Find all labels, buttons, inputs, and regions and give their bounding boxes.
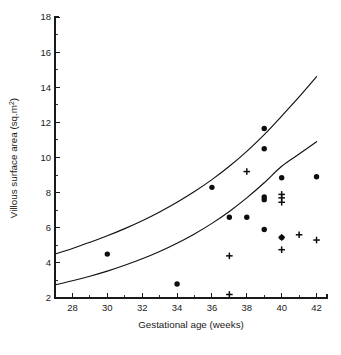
lower-reference-curve: [55, 142, 317, 285]
y-tick-label: 16: [40, 47, 51, 58]
y-tick-label: 2: [46, 292, 51, 303]
y-tick-label: 14: [40, 82, 51, 93]
x-axis-tick-labels: 2830323436384042: [67, 302, 322, 313]
data-point-circle: [314, 174, 319, 179]
chart-axes: [55, 17, 327, 298]
y-tick-label: 4: [46, 257, 51, 268]
data-point-circle: [262, 126, 267, 131]
data-point-circle: [262, 197, 267, 202]
y-tick-label: 10: [40, 152, 51, 163]
data-point-markers: [105, 126, 320, 298]
x-tick-label: 38: [242, 302, 253, 313]
y-tick-label: 12: [40, 117, 51, 128]
data-point-plus: [278, 234, 285, 241]
x-tick-label: 36: [207, 302, 218, 313]
chart-figure: 24681012141618 2830323436384042 Gestatio…: [0, 0, 341, 355]
data-point-plus: [226, 291, 233, 298]
data-point-circle: [105, 251, 110, 256]
data-point-plus: [296, 231, 303, 238]
data-point-plus: [278, 246, 285, 253]
x-tick-label: 40: [276, 302, 287, 313]
reference-curves: [55, 77, 317, 285]
y-axis-tick-labels: 24681012141618: [40, 11, 51, 303]
data-point-circle: [279, 175, 284, 180]
data-point-circle: [227, 215, 232, 220]
data-point-circle: [262, 146, 267, 151]
data-point-circle: [262, 227, 267, 232]
y-tick-label: 18: [40, 11, 51, 22]
data-point-circle: [209, 185, 214, 190]
x-axis-title: Gestational age (weeks): [138, 319, 244, 330]
upper-reference-curve: [55, 77, 317, 254]
data-point-circle: [244, 215, 249, 220]
y-tick-label: 8: [46, 187, 51, 198]
x-tick-label: 28: [67, 302, 78, 313]
villous-surface-area-scatter-chart: 24681012141618 2830323436384042 Gestatio…: [0, 0, 341, 355]
x-axis-line: [55, 294, 327, 298]
data-point-plus: [226, 253, 233, 260]
data-point-circle: [174, 281, 179, 286]
x-axis-ticks: [55, 293, 317, 298]
y-tick-label: 6: [46, 222, 51, 233]
data-point-plus: [243, 168, 250, 175]
x-tick-label: 30: [102, 302, 113, 313]
x-tick-label: 42: [311, 302, 322, 313]
x-tick-label: 34: [172, 302, 183, 313]
data-point-plus: [313, 237, 320, 244]
y-axis-ticks: [55, 17, 60, 298]
x-tick-label: 32: [137, 302, 148, 313]
data-point-plus: [278, 199, 285, 206]
y-axis-title: Villous surface area (sq.m2): [8, 98, 19, 218]
